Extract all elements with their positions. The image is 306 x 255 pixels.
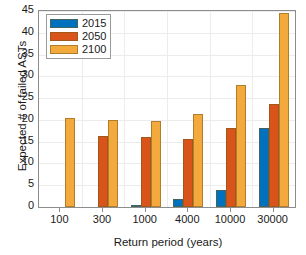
x-tick — [145, 208, 146, 212]
chart-legend: 201520502100 — [46, 14, 111, 59]
x-tick — [59, 208, 60, 212]
x-axis-label: Return period (years) — [34, 236, 302, 248]
y-tick-label: 0 — [4, 200, 34, 211]
bar-2015-4000 — [173, 199, 183, 207]
bar-2050-300 — [98, 136, 108, 207]
x-tick — [230, 208, 231, 212]
legend-label-2100: 2100 — [82, 44, 106, 55]
y-tick-label: 15 — [4, 135, 34, 146]
bar-2100-4000 — [193, 114, 203, 207]
y-tick-label: 30 — [4, 69, 34, 80]
grid-line-vertical — [210, 11, 211, 207]
bar-2015-10000 — [216, 190, 226, 207]
bar-2100-1000 — [151, 121, 161, 207]
bar-2100-10000 — [236, 85, 246, 207]
y-tick-label: 35 — [4, 48, 34, 59]
x-tick — [102, 208, 103, 212]
y-tick-label: 45 — [4, 4, 34, 15]
bar-2100-300 — [108, 120, 118, 207]
grid-line-vertical — [167, 11, 168, 207]
legend-item-2100[interactable]: 2100 — [50, 43, 106, 56]
bar-2100-30000 — [279, 13, 289, 207]
legend-item-2015[interactable]: 2015 — [50, 17, 106, 30]
y-tick-label: 40 — [4, 26, 34, 37]
grid-line-vertical — [124, 11, 125, 207]
legend-swatch-2015 — [50, 19, 78, 28]
y-tick-label: 10 — [4, 156, 34, 167]
legend-swatch-2050 — [50, 32, 78, 41]
bar-2100-100 — [65, 118, 75, 207]
y-tick-label: 20 — [4, 113, 34, 124]
legend-label-2050: 2050 — [82, 31, 106, 42]
bar-2050-30000 — [269, 104, 279, 207]
bar-2050-1000 — [141, 137, 151, 207]
bar-2050-10000 — [226, 128, 236, 207]
grid-line-vertical — [252, 11, 253, 207]
x-tick — [273, 208, 274, 212]
y-tick-label: 25 — [4, 91, 34, 102]
legend-swatch-2100 — [50, 45, 78, 54]
bar-2050-4000 — [183, 139, 193, 207]
x-tick — [187, 208, 188, 212]
bar-2015-1000 — [131, 205, 141, 207]
legend-label-2015: 2015 — [82, 18, 106, 29]
chart-figure: Expected # of failed ASTs Return period … — [0, 0, 306, 255]
bar-2015-30000 — [259, 128, 269, 207]
legend-item-2050[interactable]: 2050 — [50, 30, 106, 43]
x-tick-label: 30000 — [243, 214, 303, 225]
y-tick-label: 5 — [4, 178, 34, 189]
